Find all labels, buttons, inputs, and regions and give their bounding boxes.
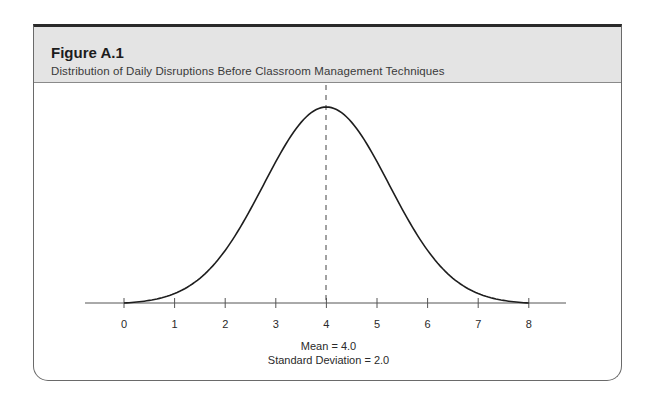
x-tick-label: 7 — [475, 318, 481, 330]
x-tick-label: 3 — [273, 318, 279, 330]
x-tick-label: 2 — [222, 318, 228, 330]
x-tick-label: 0 — [121, 318, 127, 330]
x-tick-label: 8 — [526, 318, 532, 330]
x-tick-label: 5 — [374, 318, 380, 330]
x-tick-label: 6 — [425, 318, 431, 330]
x-tick-label: 4 — [323, 318, 329, 330]
mean-annotation: Mean = 4.0 — [0, 340, 657, 352]
x-tick-label: 1 — [172, 318, 178, 330]
sd-annotation: Standard Deviation = 2.0 — [0, 354, 657, 366]
